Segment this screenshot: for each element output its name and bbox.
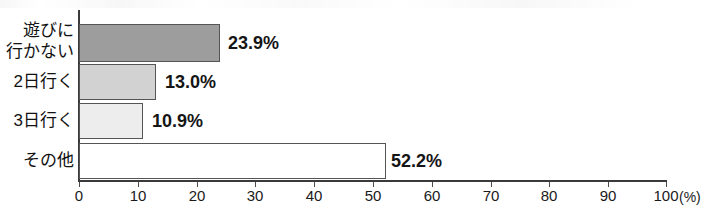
x-axis-tick-label-20: 20 bbox=[189, 188, 206, 204]
x-axis-tick-label-80: 80 bbox=[541, 188, 558, 204]
category-label-1: 2日行く bbox=[14, 71, 78, 92]
bar-value-label-2: 10.9% bbox=[152, 111, 203, 131]
bar-0 bbox=[79, 24, 220, 62]
x-axis-tick-label-30: 30 bbox=[247, 188, 264, 204]
category-label-3: その他 bbox=[23, 150, 78, 171]
x-axis-tick-label-0: 0 bbox=[75, 188, 83, 204]
x-axis-tick-label-70: 70 bbox=[483, 188, 500, 204]
bar-1 bbox=[79, 64, 156, 100]
x-axis-tick-label-50: 50 bbox=[365, 188, 382, 204]
bar-chart: 0 10 20 30 40 50 60 70 80 90 100 (%) 遊びに… bbox=[0, 0, 714, 221]
x-axis-unit-label: (%) bbox=[679, 189, 701, 205]
x-axis-tick-label-40: 40 bbox=[306, 188, 323, 204]
bar-2 bbox=[79, 103, 143, 139]
x-axis-tick-label-100: 100 bbox=[653, 188, 678, 204]
category-label-2: 3日行く bbox=[14, 110, 78, 131]
category-label-0: 遊びに 行かない bbox=[6, 20, 78, 62]
x-axis-tick-label-90: 90 bbox=[600, 188, 617, 204]
x-axis-tick-label-10: 10 bbox=[130, 188, 147, 204]
x-axis-tick-label-60: 60 bbox=[424, 188, 441, 204]
bar-value-label-0: 23.9% bbox=[228, 33, 279, 53]
plot-area: 0 10 20 30 40 50 60 70 80 90 100 (%) 遊びに… bbox=[0, 0, 714, 221]
bar-value-label-1: 13.0% bbox=[165, 72, 216, 92]
bar-value-label-3: 52.2% bbox=[391, 151, 442, 171]
bar-3 bbox=[79, 143, 386, 179]
